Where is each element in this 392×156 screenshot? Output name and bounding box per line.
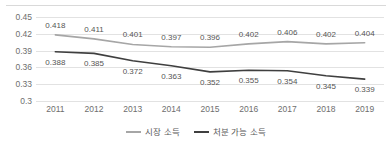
x-axis-tick-label: 2012 [85,105,104,114]
data-label: 0.411 [84,26,103,34]
x-axis-tick-label: 2016 [239,105,258,114]
line-chart: 0.450.420.390.360.330.3 2011201220132014… [0,0,392,156]
data-label: 0.402 [316,31,336,39]
legend-label: 시장 소득 [145,128,179,137]
gridline [36,101,384,102]
x-axis-tick-label: 2019 [355,105,374,114]
y-axis-tick-label: 0.33 [15,80,32,89]
data-label: 0.388 [45,59,65,67]
plot-area: 0.450.420.390.360.330.3 2011201220132014… [36,17,384,101]
data-label: 0.352 [200,79,220,87]
y-axis-tick-label: 0.3 [20,97,32,106]
data-label: 0.406 [277,29,297,37]
x-axis-tick-label: 2017 [278,105,297,114]
x-axis-tick-label: 2013 [123,105,142,114]
data-label: 0.397 [161,34,181,42]
data-label: 0.396 [200,34,220,42]
y-axis-tick-label: 0.39 [15,46,32,55]
data-label: 0.345 [316,83,336,91]
data-label: 0.354 [277,78,297,86]
legend-line-icon [126,131,141,133]
x-axis-tick-label: 2011 [46,105,64,114]
data-label: 0.355 [239,77,259,85]
data-label: 0.404 [355,30,375,38]
legend-item[interactable]: 처분 가능 소득 [194,128,266,137]
data-label: 0.385 [84,60,104,68]
y-axis-tick-label: 0.42 [15,30,32,39]
data-label: 0.363 [161,73,181,81]
data-label: 0.372 [123,68,143,76]
chart-legend: 시장 소득처분 가능 소득 [0,128,392,137]
x-axis-tick-label: 2018 [317,105,336,114]
x-axis-tick-label: 2014 [162,105,181,114]
legend-line-icon [194,131,209,133]
data-label: 0.402 [239,31,259,39]
y-axis-tick-label: 0.36 [15,63,32,72]
data-label: 0.401 [123,31,143,39]
legend-label: 처분 가능 소득 [213,128,266,137]
data-label: 0.339 [355,86,375,94]
x-axis-tick-label: 2015 [201,105,220,114]
top-divider [6,5,386,6]
legend-item[interactable]: 시장 소득 [126,128,179,137]
data-label: 0.418 [45,22,65,30]
y-axis-tick-label: 0.45 [15,13,32,22]
